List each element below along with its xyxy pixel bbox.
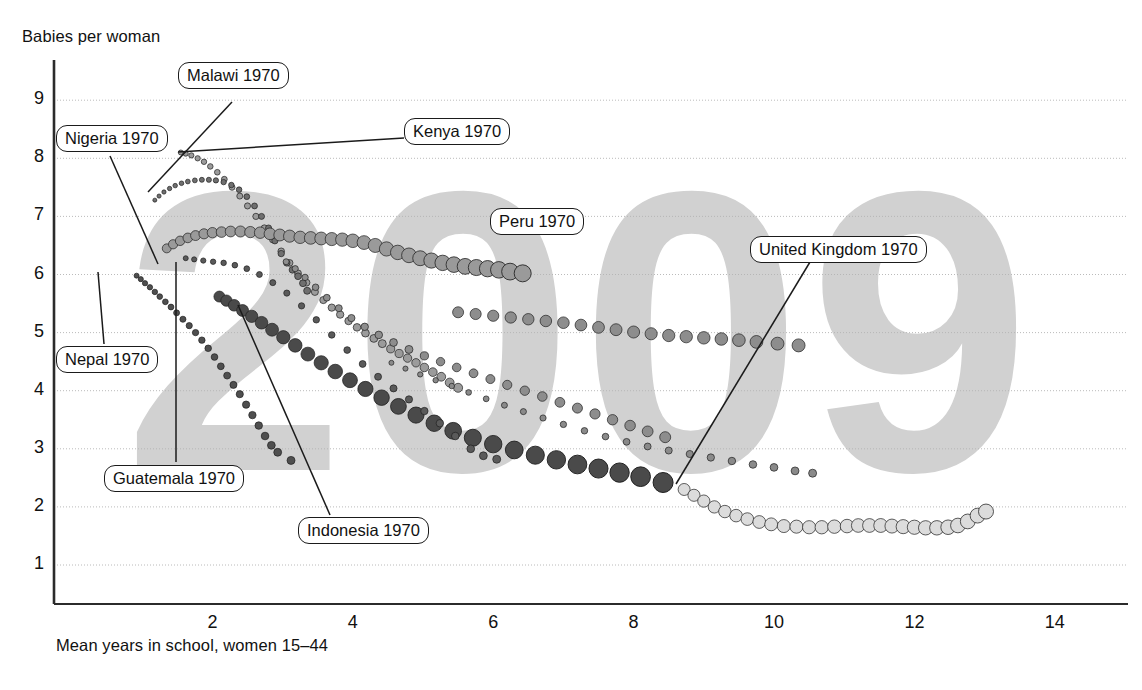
y-tick-label-9: 9	[18, 88, 44, 109]
chart-stage: 2009 Babies per woman Mean years in scho…	[0, 0, 1142, 690]
y-tick-label-5: 5	[18, 321, 44, 342]
x-tick-label-2: 2	[192, 612, 232, 633]
watermark-2009: 2009	[123, 108, 1037, 555]
y-tick-label-3: 3	[18, 437, 44, 458]
callout-united-kingdom[interactable]: United Kingdom 1970	[750, 236, 927, 263]
x-tick-label-6: 6	[473, 612, 513, 633]
callout-indonesia[interactable]: Indonesia 1970	[298, 517, 429, 544]
callout-nepal[interactable]: Nepal 1970	[56, 346, 158, 373]
callout-guatemala[interactable]: Guatemala 1970	[104, 465, 244, 492]
x-tick-label-8: 8	[614, 612, 654, 633]
callout-kenya[interactable]: Kenya 1970	[404, 118, 510, 145]
y-tick-label-4: 4	[18, 379, 44, 400]
scatter-plot-canvas: 2009	[0, 0, 1142, 690]
x-tick-label-4: 4	[333, 612, 373, 633]
y-tick-label-7: 7	[18, 204, 44, 225]
x-tick-label-10: 10	[754, 612, 794, 633]
y-tick-label-1: 1	[18, 553, 44, 574]
svg-text:2009: 2009	[123, 108, 1037, 555]
leader-line-4	[98, 272, 104, 344]
x-tick-label-12: 12	[894, 612, 934, 633]
x-tick-label-14: 14	[1035, 612, 1075, 633]
y-tick-label-8: 8	[18, 146, 44, 167]
x-axis-title: Mean years in school, women 15–44	[56, 636, 328, 655]
y-axis-title: Babies per woman	[22, 27, 160, 46]
y-tick-label-6: 6	[18, 263, 44, 284]
callout-nigeria[interactable]: Nigeria 1970	[56, 125, 168, 152]
y-tick-label-2: 2	[18, 495, 44, 516]
callout-peru[interactable]: Peru 1970	[490, 208, 584, 235]
callout-malawi[interactable]: Malawi 1970	[178, 62, 289, 89]
